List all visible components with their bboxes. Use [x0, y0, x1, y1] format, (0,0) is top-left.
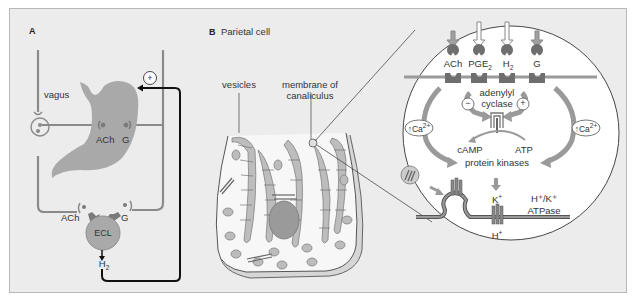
adenylyl-label: adenylyl [480, 88, 515, 98]
receptor-g-label: G [533, 59, 540, 69]
ca-right-label: ↑Ca2+ [575, 123, 598, 133]
diagram-graphics [0, 0, 637, 301]
ca-left-sup: 2+ [423, 122, 430, 129]
cyclase-label: cyclase [481, 99, 513, 109]
pump-label-line1: H⁺/K⁺ [531, 194, 557, 204]
protein-kinases-label: protein kinases [465, 158, 529, 168]
k-sup: + [498, 193, 502, 200]
h2-subscript: 2 [106, 264, 110, 271]
h2-receptor-subscript: 2 [510, 64, 514, 71]
vesicles-label: vesicles [222, 80, 256, 90]
pge-text: PGE [468, 58, 488, 69]
h-text: H [492, 230, 499, 241]
receptor-h2-label: H2 [503, 59, 514, 71]
ca-left-label: ↑Ca2+ [408, 123, 431, 133]
ach-ecl-label: ACh [61, 213, 79, 223]
h-sup: + [499, 229, 503, 236]
membrane-label-line2: canaliculus [287, 91, 334, 101]
plus-sign-inset: + [520, 99, 525, 108]
pump-label-line2: ATPase [527, 206, 560, 216]
ecl-label: ECL [94, 229, 112, 238]
membrane-label-line1: membrane of [282, 80, 338, 90]
g-ecl-label: G [121, 213, 128, 223]
ca-right-sup: 2+ [590, 122, 597, 129]
ca-right-text: ↑Ca [575, 124, 590, 134]
receptor-ach-label: ACh [444, 59, 462, 69]
receptor-pge2-label: PGE2 [468, 59, 492, 71]
minus-sign: − [465, 99, 470, 108]
panel-b-title: Parietal cell [221, 27, 270, 37]
pge-subscript: 2 [488, 64, 492, 71]
camp-label: cAMP [457, 145, 482, 155]
parietal-cell-drawing [216, 133, 362, 278]
h-plus-label: H+ [492, 230, 503, 241]
k-plus-label: K+ [492, 194, 502, 205]
h2-label: H2 [99, 259, 110, 271]
g-stomach-label: G [122, 135, 129, 145]
vagus-label: vagus [44, 90, 69, 100]
h2-text: H [99, 258, 106, 269]
nucleus [269, 201, 299, 239]
h2-receptor-text: H [503, 58, 510, 69]
ach-stomach-label: ACh [96, 135, 114, 145]
atp-label: ATP [515, 145, 533, 155]
panel-b-letter: B [209, 28, 216, 37]
plus-sign: + [147, 74, 152, 83]
ca-left-text: ↑Ca [408, 124, 423, 134]
panel-a-letter: A [29, 27, 36, 36]
